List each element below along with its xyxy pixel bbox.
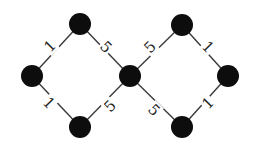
graph-diagram: 15155151 xyxy=(0,0,259,154)
edge-weight-label: 5 xyxy=(143,99,164,120)
node-left xyxy=(21,65,43,87)
node-top-left xyxy=(69,13,91,35)
node-bottom-right xyxy=(171,116,193,138)
edge-weight-label: 5 xyxy=(99,95,120,116)
node-center xyxy=(119,65,141,87)
edge-weight-label: 1 xyxy=(39,35,60,56)
node-top-right xyxy=(171,14,193,36)
nodes-layer xyxy=(21,13,239,138)
edge-weight-label: 5 xyxy=(139,36,160,57)
node-bottom-left xyxy=(69,116,91,138)
edge-weight-label: 1 xyxy=(197,92,218,113)
edge-weight-label: 1 xyxy=(38,92,59,113)
edge-weight-label: 1 xyxy=(197,36,218,57)
node-right xyxy=(217,65,239,87)
edge-weight-label: 5 xyxy=(95,36,116,57)
